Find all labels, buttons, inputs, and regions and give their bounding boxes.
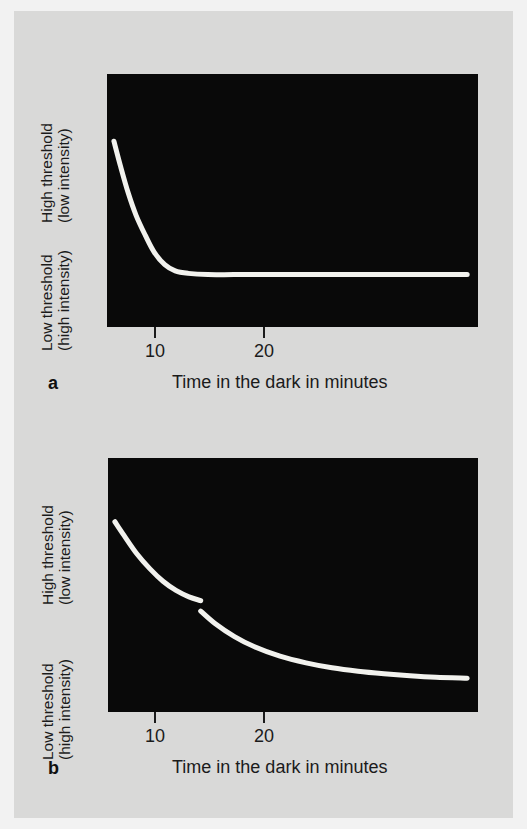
panel-a-ticklabel-10: 10 <box>135 341 175 362</box>
panel-b-y-label-high-line1: High threshold <box>39 505 56 605</box>
panel-b-curve-cone-branch <box>115 522 201 601</box>
panel-a-tick-20 <box>263 327 265 338</box>
panel-b-y-label-low-line2: (high intensity) <box>56 659 73 760</box>
panel-b-tick-10 <box>154 712 156 723</box>
panel-b-tick-20 <box>263 712 265 723</box>
panel-a-plot-area <box>107 74 478 327</box>
panel-a-y-label-high-line2: (low intensity) <box>55 123 72 223</box>
panel-b-ticklabel-10: 10 <box>135 726 175 747</box>
figure-dark-adaptation-curves: High threshold (low intensity) Low thres… <box>0 0 527 829</box>
figure-plate: High threshold (low intensity) Low thres… <box>14 11 513 818</box>
panel-a-ticklabel-20: 20 <box>244 341 284 362</box>
panel-b-y-label-high-line2: (low intensity) <box>56 505 73 605</box>
panel-b-curve-svg <box>108 458 478 712</box>
panel-a-y-label-low-line2: (high intensity) <box>55 250 72 351</box>
panel-a-tick-10 <box>154 327 156 338</box>
panel-a-y-label-high-line1: High threshold <box>38 123 55 223</box>
panel-a-curve-svg <box>107 74 478 327</box>
panel-a-y-axis-label-low: Low threshold (high intensity) <box>38 250 73 351</box>
panel-a-y-label-low-line1: Low threshold <box>38 250 55 351</box>
panel-b-curve-rod-branch <box>201 611 468 678</box>
panel-b-y-axis-label-low: Low threshold (high intensity) <box>39 659 74 760</box>
panel-b-letter: b <box>48 758 59 779</box>
panel-a: High threshold (low intensity) Low thres… <box>14 11 513 415</box>
panel-a-letter: a <box>48 373 58 394</box>
panel-a-y-axis-label-high: High threshold (low intensity) <box>38 123 73 223</box>
panel-b: High threshold (low intensity) Low thres… <box>14 415 513 818</box>
panel-b-y-axis-label-high: High threshold (low intensity) <box>39 505 74 605</box>
panel-b-plot-area <box>108 458 478 712</box>
panel-b-ticklabel-20: 20 <box>244 726 284 747</box>
panel-b-x-axis-caption: Time in the dark in minutes <box>172 757 387 778</box>
panel-a-curve-cone <box>114 141 467 274</box>
panel-b-y-label-low-line1: Low threshold <box>39 659 56 760</box>
panel-a-x-axis-caption: Time in the dark in minutes <box>172 372 387 393</box>
